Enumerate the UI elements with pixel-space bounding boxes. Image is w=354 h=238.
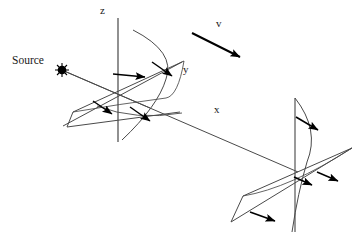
physics-diagram-svg	[0, 0, 354, 238]
axis-label-x: x	[214, 104, 220, 115]
left-parabolic-reflector-curve	[122, 30, 168, 140]
ray-arrow-left-lower-outer	[130, 107, 150, 121]
ray-arrow-left-lower-inner	[93, 101, 112, 114]
left-reflector-rim-left-edge	[67, 112, 73, 127]
ray-arrow-right-outer	[317, 172, 338, 181]
source-point-spikes	[55, 63, 69, 77]
left-reflector-rim-upper	[73, 61, 184, 112]
axis-label-z: z	[100, 5, 105, 16]
source-label: Source	[12, 55, 44, 67]
diagram-canvas: Source z y x v	[0, 0, 354, 238]
velocity-vector-arrow	[192, 33, 240, 57]
axis-line-y	[63, 62, 182, 126]
axis-label-y: y	[183, 64, 189, 75]
velocity-label: v	[216, 18, 222, 29]
ray-arrow-right-lower	[250, 212, 275, 221]
